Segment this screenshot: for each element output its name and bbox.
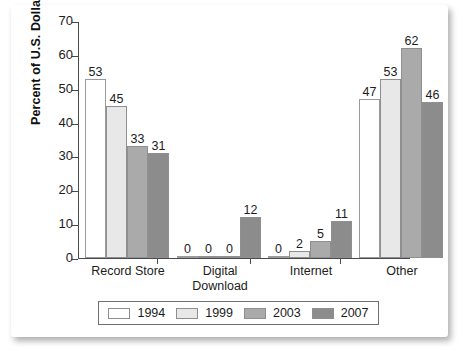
bar-other-1994[interactable]: 47 [359,99,380,258]
y-axis-line [78,22,79,259]
bar-digital-download-2003[interactable]: 0 [219,256,240,258]
x-category-label-internet: Internet [261,264,361,279]
y-tick-40: 40 [78,124,79,125]
y-tick-20: 20 [78,191,79,192]
y-tick-70: 70 [78,22,79,23]
y-tick-0: 0 [78,259,79,260]
bar-record-store-2003[interactable]: 33 [127,146,148,258]
bar-other-1999[interactable]: 53 [380,79,401,258]
y-tick-label: 30 [59,148,73,163]
x-category-label-record-store: Record Store [78,264,178,279]
x-category-label-digital-download: Digital Download [170,264,270,294]
y-tick-10: 10 [78,225,79,226]
plot-area: 70 60 50 40 30 20 10 0 [78,22,410,259]
legend-label: 2007 [341,306,369,320]
legend-swatch-icon [176,308,198,319]
legend-label: 2003 [273,306,301,320]
y-tick-label: 10 [59,216,73,231]
bar-value-label: 47 [363,85,377,99]
y-tick-label: 50 [59,81,73,96]
legend: 1994 1999 2003 2007 [98,301,379,325]
legend-label: 1994 [137,306,165,320]
bar-value-label: 45 [110,92,124,106]
bar-value-label: 53 [89,65,103,79]
bar-value-label: 5 [317,227,324,241]
legend-item-1999[interactable]: 1999 [176,306,233,320]
bar-value-label: 33 [131,132,145,146]
legend-swatch-icon [312,308,334,319]
x-category-label-other: Other [352,264,452,279]
bar-value-label: 46 [426,88,440,102]
y-tick-label: 0 [66,250,73,265]
bar-value-label: 62 [405,34,419,48]
y-tick-30: 30 [78,157,79,158]
y-tick-60: 60 [78,56,79,57]
bar-value-label: 11 [335,207,348,221]
bar-digital-download-1994[interactable]: 0 [177,256,198,258]
x-axis-line [78,258,410,259]
legend-item-2007[interactable]: 2007 [312,306,369,320]
y-tick-label: 60 [59,47,73,62]
bar-value-label: 0 [205,242,212,256]
bar-internet-1994[interactable]: 0 [268,256,289,258]
bar-other-2003[interactable]: 62 [401,48,422,258]
bar-value-label: 0 [275,242,282,256]
bar-record-store-1999[interactable]: 45 [106,106,127,258]
bar-internet-1999[interactable]: 2 [289,251,310,258]
legend-swatch-icon [108,308,130,319]
bar-value-label: 12 [244,203,258,217]
y-axis-title: Percent of U.S. Dollars [29,0,43,125]
bar-value-label: 31 [152,139,166,153]
bar-internet-2007[interactable]: 11 [331,221,352,258]
bar-value-label: 0 [226,242,233,256]
chart-card: Percent of U.S. Dollars 70 60 50 40 30 2… [11,5,448,337]
legend-item-1994[interactable]: 1994 [108,306,165,320]
y-tick-50: 50 [78,90,79,91]
bar-other-2007[interactable]: 46 [422,102,443,258]
y-tick-label: 20 [59,182,73,197]
bar-record-store-2007[interactable]: 31 [148,153,169,258]
bar-digital-download-2007[interactable]: 12 [240,217,261,258]
legend-swatch-icon [244,308,266,319]
bar-digital-download-1999[interactable]: 0 [198,256,219,258]
y-tick-label: 70 [59,13,73,28]
bar-record-store-1994[interactable]: 53 [85,79,106,258]
y-tick-label: 40 [59,115,73,130]
bar-value-label: 53 [384,65,398,79]
legend-item-2003[interactable]: 2003 [244,306,301,320]
legend-label: 1999 [205,306,233,320]
bar-value-label: 2 [296,237,303,251]
bar-value-label: 0 [184,242,191,256]
bar-internet-2003[interactable]: 5 [310,241,331,258]
